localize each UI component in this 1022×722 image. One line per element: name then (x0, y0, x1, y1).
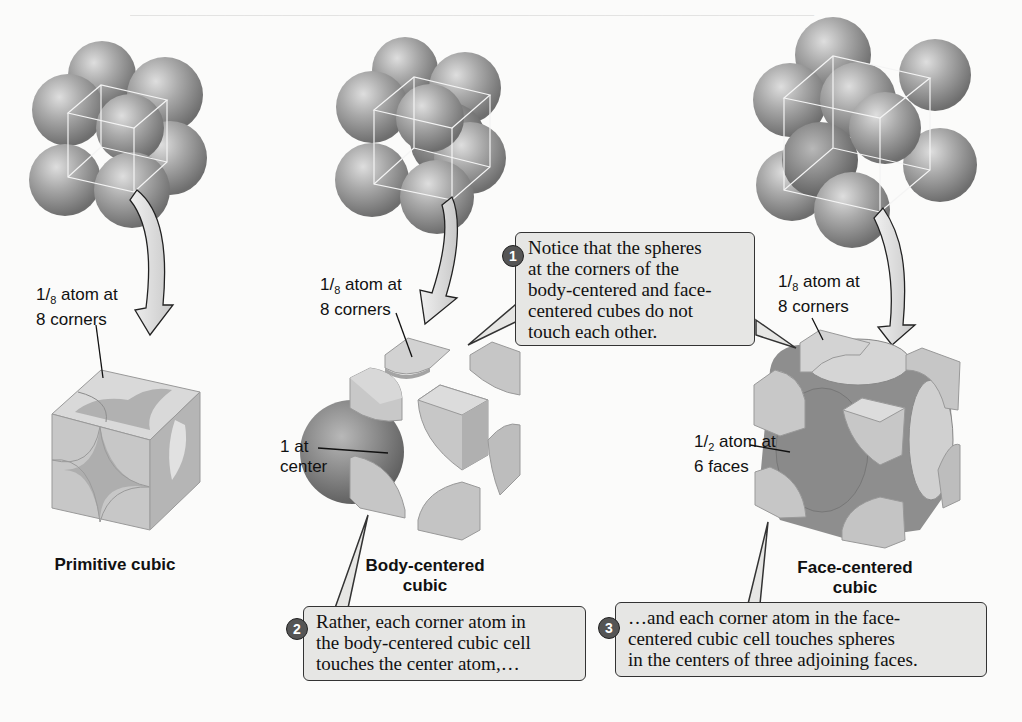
callout-1-number-badge: 1 (502, 245, 524, 267)
callout-3-number-badge: 3 (598, 617, 620, 639)
bcc-center-label: 1 at center (280, 437, 327, 477)
fcc-corner-label: 1/8 atom at 8 corners (778, 272, 860, 317)
face-centered-sphere-cluster (753, 17, 977, 248)
callout-3: …and each corner atom in the face- cente… (615, 602, 987, 677)
down-arrow-icon (874, 208, 915, 345)
callout-2: Rather, each corner atom in the body-cen… (303, 606, 586, 681)
callout-1: Notice that the spheres at the corners o… (515, 232, 755, 346)
bcc-title: Body-centered cubic (350, 556, 500, 596)
body-centered-sphere-cluster (335, 37, 506, 234)
callout-3-tail (748, 522, 768, 604)
fcc-title: Face-centered cubic (780, 558, 930, 598)
fcc-face-label: 1/2 atom at 6 faces (694, 432, 776, 477)
bcc-corner-label: 1/8 atom at 8 corners (320, 275, 402, 320)
callout-2-number-badge: 2 (286, 618, 308, 640)
body-centered-cube (300, 338, 520, 540)
primitive-cube (52, 370, 200, 530)
primitive-sphere-cluster (29, 41, 207, 228)
face-centered-cube (754, 330, 960, 548)
primitive-cubic-title: Primitive cubic (40, 555, 190, 575)
primitive-corner-label: 1/8 atom at 8 corners (36, 285, 118, 330)
